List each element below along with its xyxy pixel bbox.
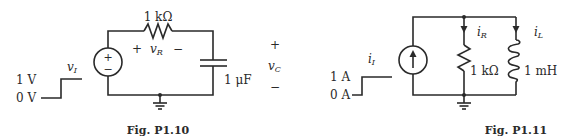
inductor-value-label: 1 mH — [524, 64, 557, 78]
current-arrow-icon — [461, 26, 468, 33]
resistor-icon — [144, 24, 172, 38]
input-symbol: vI — [67, 60, 78, 75]
low-level-label: 0 A — [330, 88, 350, 102]
inductor-icon — [508, 40, 519, 85]
resistor-current-label: iR — [477, 25, 487, 40]
circuit-diagrams: 1 V 0 V vI + − 1 kΩ — [0, 0, 565, 140]
low-level-label: 0 V — [16, 91, 36, 105]
figure-p1-11: 1 A 0 A iI — [330, 15, 557, 137]
step-input-waveform — [41, 79, 82, 98]
capacitor-value-label: 1 μF — [224, 73, 252, 87]
resistor-plus-label: + — [132, 42, 142, 56]
current-arrow-icon — [513, 26, 520, 33]
resistor-minus-label: − — [173, 42, 183, 56]
high-level-label: 1 A — [330, 70, 350, 84]
current-source-icon — [399, 46, 427, 74]
high-level-label: 1 V — [16, 73, 36, 87]
capacitor-icon — [200, 60, 227, 66]
step-input-waveform — [352, 77, 392, 95]
wire — [108, 66, 213, 95]
resistor-icon — [458, 45, 470, 71]
capacitor-plus-label: + — [270, 38, 280, 52]
resistor-value-label: 1 kΩ — [470, 64, 499, 78]
capacitor-minus-label: − — [270, 80, 280, 94]
svg-text:−: − — [103, 63, 112, 76]
resistor-value-label: 1 kΩ — [144, 10, 173, 24]
figure-caption: Fig. P1.10 — [127, 124, 190, 137]
input-symbol: iI — [368, 52, 376, 67]
figure-caption: Fig. P1.11 — [485, 124, 547, 137]
voltage-source-icon: + − — [94, 48, 122, 76]
figure-p1-10: 1 V 0 V vI + − 1 kΩ — [16, 10, 281, 137]
inductor-current-label: iL — [534, 25, 543, 40]
capacitor-voltage-label: vC — [268, 59, 281, 74]
resistor-voltage-label: vR — [150, 42, 163, 57]
